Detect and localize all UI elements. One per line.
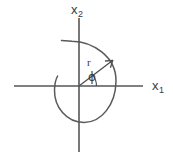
radius-label: r <box>87 57 91 68</box>
x2-axis-label: x2 <box>71 3 83 16</box>
x1-axis-label-subscript: 1 <box>159 85 164 95</box>
x2-axis-label-text: x <box>71 2 78 17</box>
x1-axis-label-text: x <box>152 78 159 93</box>
x1-axis-label: x1 <box>152 79 164 92</box>
diagram-canvas <box>0 0 173 159</box>
x2-axis-label-subscript: 2 <box>78 9 83 19</box>
angle-label: ϕ <box>88 71 96 83</box>
polar-coordinate-diagram: x2 x1 r ϕ <box>0 0 173 159</box>
